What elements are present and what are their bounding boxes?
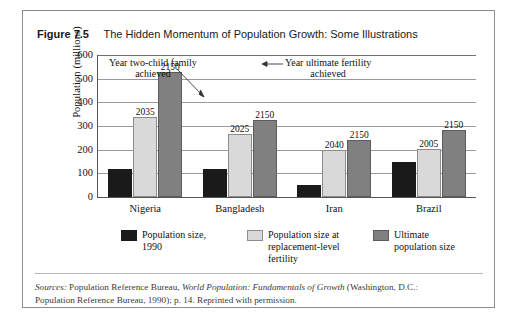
category-label-brazil: Brazil: [416, 203, 442, 214]
legend-label-population-1990-line2: 1990: [142, 241, 162, 252]
chart-plot-wrapper: Population (millions) 600 500 400 300 20…: [37, 47, 483, 225]
y-axis-tick-labels: 600 500 400 300 200 100 0: [59, 55, 93, 197]
annotation-ultimate-fertility: Year ultimate fertility achieved: [285, 57, 371, 79]
y-tick-300: 300: [63, 120, 93, 131]
source-part2: (Washington, D.C.:: [345, 282, 419, 292]
y-tick-100: 100: [63, 167, 93, 178]
annotation-ultimate-line1: Year ultimate fertility: [285, 57, 371, 68]
source-part1: Population Reference Bureau,: [67, 282, 182, 292]
bar-nigeria-ultimate[interactable]: 2150: [158, 72, 182, 197]
bar-nigeria-replacement[interactable]: 2035: [133, 117, 157, 198]
bar-label-bangladesh-ultimate: 2150: [255, 110, 274, 120]
bar-iran-pop1990[interactable]: [297, 185, 321, 197]
bar-label-iran-replacement: 2040: [325, 140, 344, 150]
category-label-nigeria: Nigeria: [130, 203, 162, 214]
legend-swatch-icon-ultimate-size: [373, 230, 389, 241]
legend-swatch-icon-replacement-level: [247, 230, 263, 241]
y-tick-500: 500: [63, 73, 93, 84]
source-italic-title: World Population: Fundamentals of Growth: [182, 282, 345, 292]
y-tick-600: 600: [63, 49, 93, 60]
annotation-two-child-line2: achieved: [135, 68, 171, 79]
legend-label-replacement-level-line1: Population size at: [268, 229, 339, 240]
bar-iran-ultimate[interactable]: 2150: [347, 140, 371, 197]
annotation-ultimate-line2: achieved: [310, 68, 346, 79]
category-label-bangladesh: Bangladesh: [215, 203, 264, 214]
figure-title-row: Figure 7.5 The Hidden Momentum of Popula…: [37, 24, 487, 40]
y-tick-0: 0: [63, 191, 93, 202]
y-tick-400: 400: [63, 96, 93, 107]
bar-bangladesh-replacement[interactable]: 2025: [228, 134, 252, 197]
legend-item-ultimate-size[interactable]: Ultimate population size: [373, 229, 481, 253]
legend-label-population-1990-line1: Population size,: [142, 229, 206, 240]
legend-label-ultimate-size-line2: population size: [394, 241, 455, 252]
figure-frame: Figure 7.5 The Hidden Momentum of Popula…: [22, 10, 495, 308]
bar-group-brazil: 2005 2150 Brazil: [392, 55, 466, 197]
legend-label-ultimate-size-line1: Ultimate: [394, 229, 429, 240]
legend-label-ultimate-size: Ultimate population size: [394, 229, 455, 253]
legend-label-replacement-level-line2: replacement-level: [268, 241, 340, 252]
legend-swatch-icon-population-1990: [121, 230, 137, 241]
bar-group-bangladesh: 2025 2150 Bangladesh: [203, 55, 277, 197]
bar-brazil-pop1990[interactable]: [392, 162, 416, 198]
legend-label-replacement-level: Population size at replacement-level fer…: [268, 229, 340, 266]
chart-legend: Population size, 1990 Population size at…: [121, 229, 481, 266]
bar-label-nigeria-replacement: 2035: [136, 107, 155, 117]
bar-label-iran-ultimate: 2150: [350, 130, 369, 140]
bar-bangladesh-pop1990[interactable]: [203, 169, 227, 197]
legend-item-population-1990[interactable]: Population size, 1990: [121, 229, 229, 253]
y-tick-200: 200: [63, 144, 93, 155]
bar-nigeria-pop1990[interactable]: [108, 169, 132, 197]
legend-label-replacement-level-line3: fertility: [268, 253, 298, 264]
bar-brazil-replacement[interactable]: 2005: [417, 149, 441, 198]
source-prefix: Sources:: [35, 282, 67, 292]
legend-label-population-1990: Population size, 1990: [142, 229, 206, 253]
bar-label-brazil-ultimate: 2150: [444, 120, 463, 130]
annotation-two-child-line1: Year two-child family: [109, 57, 197, 68]
bar-label-bangladesh-replacement: 2025: [230, 124, 249, 134]
source-divider: [35, 273, 483, 274]
annotation-two-child-family: Year two-child family achieved: [109, 57, 197, 79]
bar-bangladesh-ultimate[interactable]: 2150: [253, 120, 277, 197]
legend-item-replacement-level[interactable]: Population size at replacement-level fer…: [247, 229, 355, 266]
category-label-iran: Iran: [326, 203, 343, 214]
bar-iran-replacement[interactable]: 2040: [322, 150, 346, 197]
source-note: Sources: Population Reference Bureau, Wo…: [35, 281, 485, 307]
source-line2: Population Reference Bureau, 1990); p. 1…: [35, 295, 297, 305]
figure-title-text: The Hidden Momentum of Population Growth…: [103, 28, 417, 40]
bar-brazil-ultimate[interactable]: 2150: [442, 130, 466, 197]
bar-label-brazil-replacement: 2005: [419, 139, 438, 149]
